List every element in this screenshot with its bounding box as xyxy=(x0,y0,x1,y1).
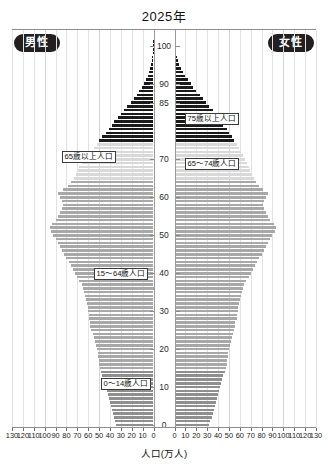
chart-title: 2025年 xyxy=(0,6,328,25)
callout-age15_64: 15～64歳人口 xyxy=(94,268,149,280)
value-tick-label: 90 xyxy=(51,432,59,439)
value-tick-label: 50 xyxy=(95,432,103,439)
plot-area: 0102030405060708590100 75歳以上人口65歳以上人口65～… xyxy=(12,30,316,428)
value-tick-label: 70 xyxy=(247,432,255,439)
value-tick-label: 40 xyxy=(106,432,114,439)
value-tick-label: 50 xyxy=(225,432,233,439)
value-tick-label: 60 xyxy=(236,432,244,439)
value-tick-label: 130 xyxy=(310,432,322,439)
value-tick-label: 20 xyxy=(128,432,136,439)
value-tick-label: 0 xyxy=(172,432,176,439)
callout-over65: 65歳以上人口 xyxy=(62,151,116,163)
value-tick-label: 130 xyxy=(6,432,18,439)
value-tick-label: 0 xyxy=(151,432,155,439)
population-pyramid-chart: 2025年 男性 女性 0102030405060708590100 75歳以上… xyxy=(0,0,328,465)
callout-age0_14: 0～14歳人口 xyxy=(101,378,152,390)
value-tick-label: 80 xyxy=(62,432,70,439)
value-tick-label: 30 xyxy=(203,432,211,439)
callout-labels: 75歳以上人口65歳以上人口65～74歳人口15～64歳人口0～14歳人口 xyxy=(12,30,316,428)
value-tick-label: 20 xyxy=(192,432,200,439)
callout-age65_74: 65～74歳人口 xyxy=(185,158,240,170)
value-tick-label: 110 xyxy=(28,432,40,439)
value-tick-label: 40 xyxy=(214,432,222,439)
value-tick-label: 30 xyxy=(117,432,125,439)
value-tick-label: 10 xyxy=(181,432,189,439)
value-tick-label: 60 xyxy=(84,432,92,439)
value-tick-label: 70 xyxy=(73,432,81,439)
value-tick-label: 10 xyxy=(138,432,146,439)
gridline xyxy=(316,30,317,428)
value-axis-title: 人口(万人) xyxy=(0,446,328,460)
callout-over75: 75歳以上人口 xyxy=(185,113,239,125)
value-tick-label: 100 xyxy=(38,432,50,439)
value-tick-label: 80 xyxy=(257,432,265,439)
value-tick-label: 90 xyxy=(268,432,276,439)
value-tick-label: 120 xyxy=(17,432,29,439)
value-axis: 0010102020303040405050606070708080909010… xyxy=(12,428,316,448)
